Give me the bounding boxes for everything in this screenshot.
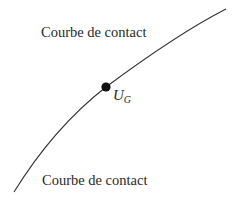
contact-curve-label-top: Courbe de contact bbox=[41, 25, 147, 40]
point-ug-label-subscript: G bbox=[124, 94, 131, 105]
contact-curve-label-bottom: Courbe de contact bbox=[42, 173, 148, 188]
point-ug-label: UG bbox=[113, 88, 131, 105]
point-ug-marker bbox=[101, 82, 110, 91]
point-ug-label-main: U bbox=[113, 87, 124, 103]
